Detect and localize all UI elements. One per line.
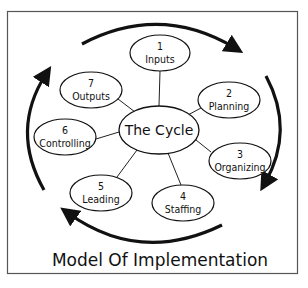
model-of-implementation-diagram: The Cycle 1 Inputs 2 Planning 3 Organizi…	[0, 0, 308, 288]
node-organizing: 3 Organizing	[209, 143, 271, 179]
node-number: 3	[237, 148, 243, 160]
node-number: 1	[157, 40, 163, 52]
node-controlling: 6 Controlling	[34, 119, 96, 155]
node-number: 4	[180, 190, 186, 202]
node-number: 6	[62, 124, 68, 136]
node-inputs: 1 Inputs	[130, 35, 190, 71]
node-leading: 5 Leading	[70, 175, 132, 211]
node-number: 5	[98, 180, 104, 192]
node-label: Leading	[82, 193, 119, 205]
node-number: 7	[88, 77, 94, 89]
node-label: Inputs	[145, 53, 174, 65]
node-staffing: 4 Staffing	[152, 185, 214, 221]
node-outputs: 7 Outputs	[60, 72, 122, 108]
node-planning: 2 Planning	[198, 82, 260, 118]
node-label: Controlling	[39, 137, 90, 149]
node-number: 2	[226, 87, 232, 99]
node-label: Organizing	[214, 161, 265, 173]
center-label: The Cycle	[124, 122, 194, 138]
center-node: The Cycle	[119, 106, 199, 154]
node-label: Outputs	[72, 90, 110, 102]
node-label: Staffing	[165, 203, 202, 215]
diagram-title: Model Of Implementation	[52, 250, 268, 270]
node-label: Planning	[209, 100, 250, 112]
